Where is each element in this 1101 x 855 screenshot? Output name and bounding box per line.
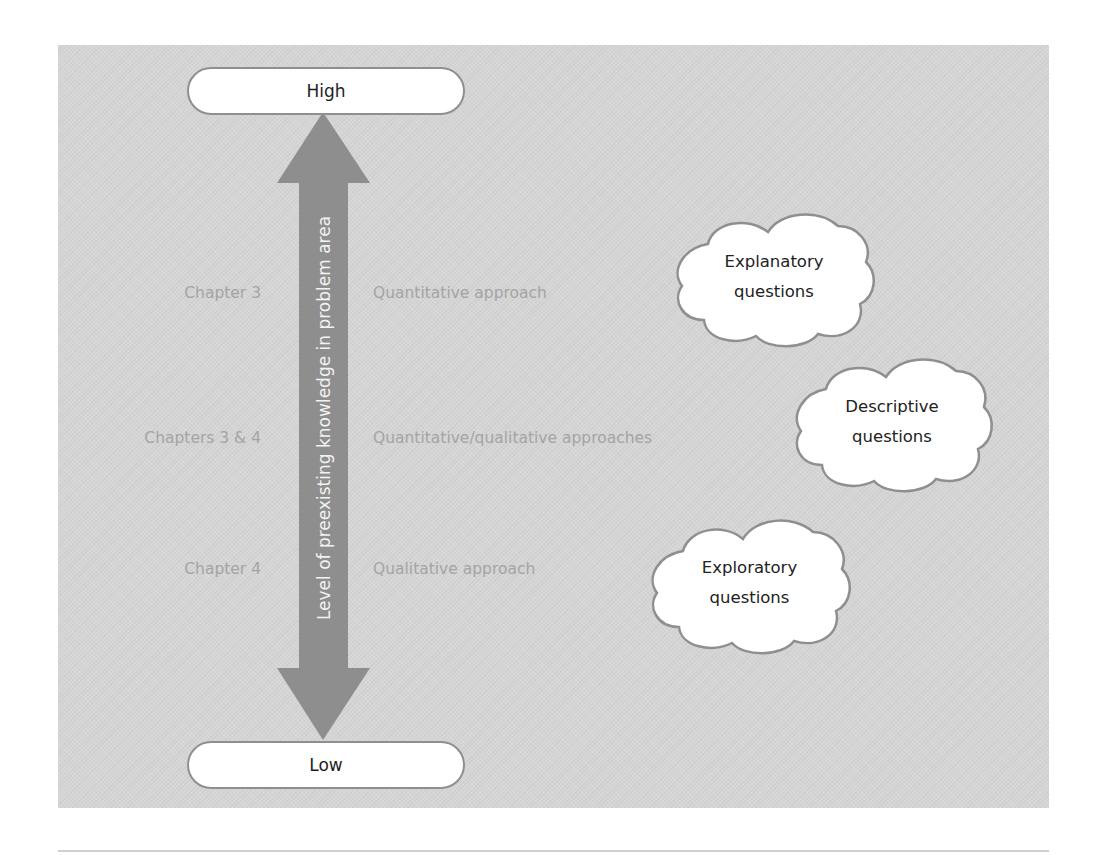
cloud-line-2: questions <box>852 422 932 452</box>
explanatory-questions-cloud: Explanatory questions <box>668 204 880 350</box>
chapter-label-row-2: Chapters 3 & 4 <box>144 429 261 447</box>
axis-title: Level of preexisting knowledge in proble… <box>312 178 336 658</box>
low-label: Low <box>309 755 342 775</box>
descriptive-questions-cloud: Descriptive questions <box>788 349 996 495</box>
cloud-line-1: Descriptive <box>845 392 938 422</box>
high-label: High <box>306 81 345 101</box>
low-label-box: Low <box>187 741 465 789</box>
cloud-line-2: questions <box>734 277 814 307</box>
chapter-label-row-1: Chapter 3 <box>184 284 261 302</box>
high-label-box: High <box>187 67 465 115</box>
cloud-line-1: Exploratory <box>702 553 797 583</box>
cloud-line-2: questions <box>710 583 790 613</box>
approach-label-row-1: Quantitative approach <box>373 284 547 302</box>
approach-label-row-2: Quantitative/qualitative approaches <box>373 429 652 447</box>
exploratory-questions-cloud: Exploratory questions <box>643 509 856 657</box>
chapter-label-row-3: Chapter 4 <box>184 560 261 578</box>
cloud-line-1: Explanatory <box>724 247 823 277</box>
approach-label-row-3: Qualitative approach <box>373 560 535 578</box>
